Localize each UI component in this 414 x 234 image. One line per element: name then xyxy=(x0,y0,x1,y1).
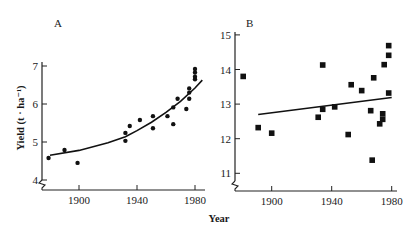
data-point xyxy=(345,132,351,138)
data-point xyxy=(187,90,191,94)
y-tick-label: 15 xyxy=(220,29,232,41)
x-tick-label: 1940 xyxy=(321,195,344,207)
data-point xyxy=(320,62,326,68)
x-axis-title: Year xyxy=(209,213,230,224)
y-axis-title: Yield (t · ha⁻¹) xyxy=(15,85,27,151)
data-point xyxy=(320,106,326,112)
x-tick-label: 1980 xyxy=(184,194,207,206)
data-point xyxy=(175,96,179,100)
x-tick-label: 1940 xyxy=(126,194,149,206)
data-point xyxy=(386,90,392,96)
panel-b-data-points xyxy=(240,43,391,163)
y-tick-label: 7 xyxy=(33,60,39,72)
data-point xyxy=(171,122,175,126)
data-point xyxy=(332,104,338,110)
data-point xyxy=(75,161,79,165)
data-point xyxy=(62,148,66,152)
data-point xyxy=(269,130,275,136)
data-point xyxy=(187,96,191,100)
data-point xyxy=(348,82,354,88)
data-point xyxy=(123,139,127,143)
data-point xyxy=(240,74,246,80)
data-point xyxy=(359,88,365,94)
data-point xyxy=(128,124,132,128)
data-point xyxy=(187,86,191,90)
data-point xyxy=(371,75,377,81)
data-point xyxy=(381,62,387,68)
panel-b-axes: 1112131415190019401980 xyxy=(220,29,403,207)
axis-break-icon xyxy=(39,180,45,190)
y-tick-label: 13 xyxy=(220,98,232,110)
panel-b: B 1112131415190019401980 xyxy=(220,17,403,207)
y-tick-label: 12 xyxy=(220,133,231,145)
data-point xyxy=(193,67,197,71)
x-tick-label: 1900 xyxy=(68,194,91,206)
data-point xyxy=(165,114,169,118)
y-tick-label: 14 xyxy=(220,64,232,76)
chart-canvas: A 4567190019401980 B 1112131415190019401… xyxy=(0,0,414,234)
data-point xyxy=(386,43,392,49)
data-point xyxy=(369,157,375,163)
data-point xyxy=(151,114,155,118)
data-point xyxy=(193,74,197,78)
x-tick-label: 1900 xyxy=(261,195,284,207)
data-point xyxy=(315,114,321,120)
panel-b-label: B xyxy=(246,17,253,29)
figure: A 4567190019401980 B 1112131415190019401… xyxy=(0,0,414,234)
y-tick-label: 4 xyxy=(33,174,39,186)
y-tick-label: 5 xyxy=(33,136,39,148)
panel-a: A 4567190019401980 xyxy=(33,17,207,206)
x-tick-label: 1980 xyxy=(381,195,404,207)
y-tick-label: 11 xyxy=(220,167,231,179)
trend-line xyxy=(50,80,202,155)
panel-a-trend-line xyxy=(50,80,202,155)
data-point xyxy=(151,126,155,130)
panel-a-label: A xyxy=(54,17,62,29)
data-point xyxy=(368,108,374,114)
data-point xyxy=(386,53,392,59)
data-point xyxy=(46,156,50,160)
axis-break-icon xyxy=(232,181,238,191)
y-tick-label: 6 xyxy=(33,98,39,110)
data-point xyxy=(380,117,386,123)
data-point xyxy=(255,125,261,131)
data-point xyxy=(138,118,142,122)
data-point xyxy=(380,111,386,117)
data-point xyxy=(171,105,175,109)
panel-a-data-points xyxy=(46,67,197,165)
data-point xyxy=(184,107,188,111)
panel-a-axes: 4567190019401980 xyxy=(33,60,207,206)
data-point xyxy=(123,131,127,135)
